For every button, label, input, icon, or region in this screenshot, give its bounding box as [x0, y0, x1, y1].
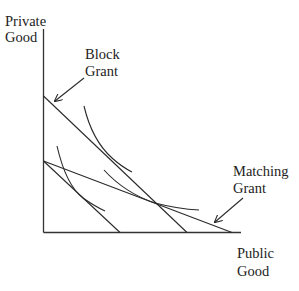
x-axis-label-line1: Public	[237, 245, 274, 261]
matching-grant-label-line1: Matching	[233, 163, 289, 179]
block-grant-label-line2: Grant	[85, 63, 118, 79]
block-grant-label-line1: Block	[85, 46, 120, 62]
matching-grant-label-line2: Grant	[233, 180, 266, 196]
indifference-curve-matching	[104, 170, 199, 210]
indifference-curve-low	[57, 146, 105, 211]
y-axis-label-line2: Good	[5, 29, 38, 45]
matching-grant-budget-line	[44, 161, 233, 233]
y-axis-label-line1: Private	[5, 13, 46, 29]
matching-grant-arrow	[215, 198, 243, 222]
block-grant-arrow	[55, 78, 84, 101]
indifference-curve-block	[84, 106, 132, 172]
grant-diagram: Private Good Block Grant Matching Grant …	[0, 0, 299, 291]
block-grant-budget-line	[44, 96, 188, 233]
x-axis-label-line2: Good	[237, 263, 270, 279]
